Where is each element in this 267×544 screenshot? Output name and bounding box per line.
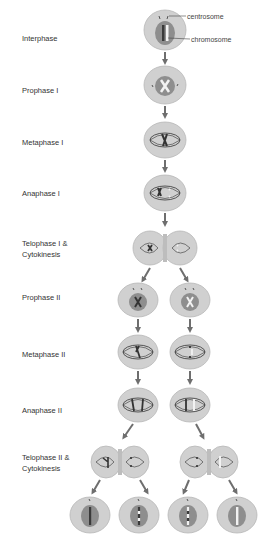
arrow xyxy=(184,480,189,492)
meiosis-diagram xyxy=(0,0,267,544)
cell-metaphase-2-left xyxy=(118,335,158,369)
cell-prophase-2-left xyxy=(118,283,158,317)
cell-metaphase-1 xyxy=(144,122,186,158)
final-cell-4 xyxy=(217,497,257,533)
cell-telophase-2-right xyxy=(180,446,238,478)
cell-metaphase-2-right xyxy=(170,335,210,369)
cell-telophase-2-left xyxy=(91,446,149,478)
arrow xyxy=(229,480,236,492)
arrow xyxy=(93,480,100,492)
final-cell-1 xyxy=(70,497,110,533)
arrow xyxy=(140,480,147,492)
final-cell-2 xyxy=(119,497,159,533)
cell-anaphase-2-right xyxy=(170,388,210,422)
cell-prophase-1 xyxy=(144,66,186,104)
cell-anaphase-1 xyxy=(144,175,186,211)
cell-anaphase-2-left xyxy=(118,388,158,422)
final-cell-3 xyxy=(168,497,208,533)
cell-interphase xyxy=(144,10,190,50)
arrow xyxy=(180,268,187,280)
cell-telophase-1 xyxy=(133,231,197,265)
arrow xyxy=(196,424,203,437)
arrow xyxy=(124,424,133,437)
cell-prophase-2-right xyxy=(170,283,210,317)
arrow xyxy=(143,268,150,280)
